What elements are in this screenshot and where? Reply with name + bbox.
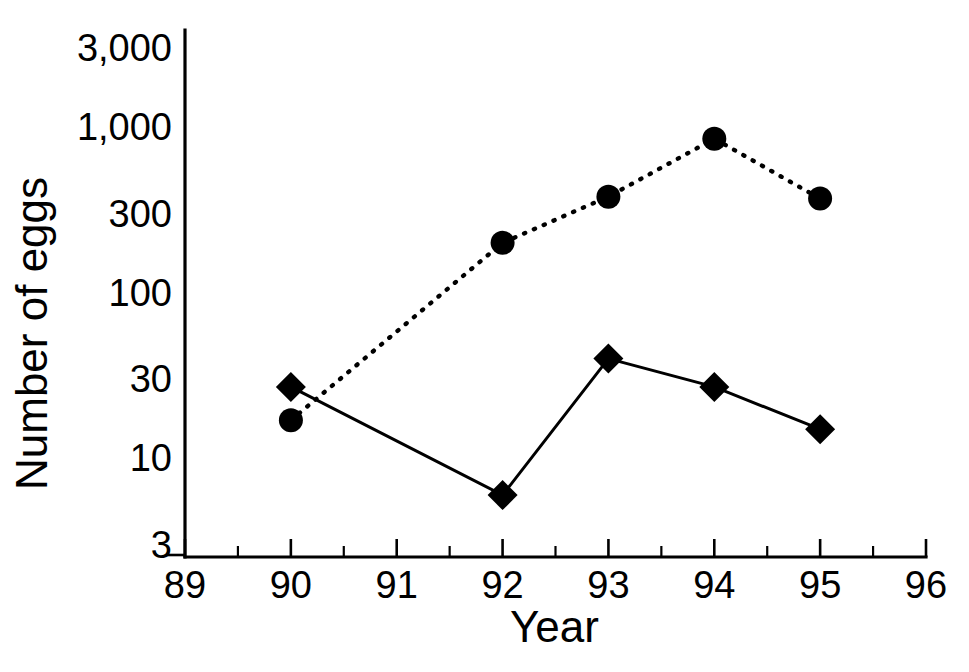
data-point-diamond — [699, 372, 729, 402]
x-tick-label: 91 — [357, 566, 437, 604]
x-tick-label: 95 — [780, 566, 860, 604]
series-markers — [276, 127, 835, 510]
data-point-circle — [808, 187, 832, 211]
y-tick-label: 300 — [109, 195, 172, 233]
data-point-circle — [279, 408, 303, 432]
series-lines — [291, 139, 820, 495]
y-axis-title: Number of eggs — [10, 177, 54, 490]
x-tick-label: 92 — [463, 566, 543, 604]
x-tick-label: 89 — [145, 566, 225, 604]
y-tick-label: 100 — [109, 274, 172, 312]
data-point-diamond — [488, 480, 518, 510]
x-axis-title: Year — [0, 605, 969, 649]
x-tick-label: 90 — [251, 566, 331, 604]
y-tick-label: 30 — [130, 360, 172, 398]
data-point-circle — [596, 185, 620, 209]
data-point-circle — [702, 127, 726, 151]
y-tick-label: 1,000 — [77, 108, 172, 146]
y-tick-label: 3 — [151, 526, 172, 564]
x-tick-label: 93 — [568, 566, 648, 604]
axis-lines — [185, 30, 926, 557]
y-tick-label: 10 — [130, 439, 172, 477]
data-point-diamond — [276, 372, 306, 402]
y-tick-label: 3,000 — [77, 29, 172, 67]
data-point-diamond — [593, 344, 623, 374]
series-line-circle — [291, 139, 820, 421]
data-point-diamond — [805, 414, 835, 444]
x-tick-label: 94 — [674, 566, 754, 604]
chart-figure: 3,0001,00030010030103 8990919293949596 N… — [0, 0, 969, 672]
x-axis-ticks — [185, 539, 926, 557]
x-tick-label: 96 — [886, 566, 966, 604]
series-line-diamond — [291, 359, 820, 496]
data-point-circle — [491, 231, 515, 255]
